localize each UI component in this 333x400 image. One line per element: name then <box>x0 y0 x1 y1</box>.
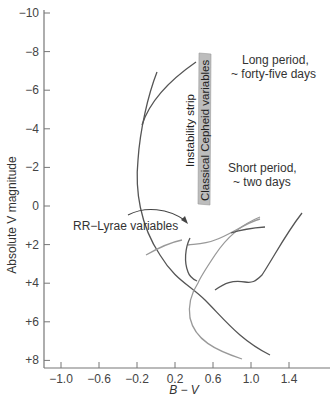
y-tick-label: −4 <box>25 122 39 136</box>
rr-lyrae-label: RR−Lyrae variables <box>73 219 178 233</box>
y-axis-title: Absolute V magnitude <box>5 156 19 274</box>
y-tick-label: +2 <box>25 238 39 252</box>
strip-label-classical-cepheid: Classical Cepheid variables <box>199 59 211 201</box>
y-ticks: −10−8−6−4−20+2+4+6+8 <box>19 6 50 367</box>
y-tick-label: −6 <box>25 83 39 97</box>
arrowhead-icon <box>181 216 188 224</box>
short-period-label: Short period, <box>228 161 297 175</box>
short-period-days: ~ two days <box>233 175 291 189</box>
y-tick-label: −2 <box>25 160 39 174</box>
y-tick-label: +8 <box>25 353 39 367</box>
horizontal-branch <box>146 240 182 255</box>
x-tick-label: −1.0 <box>49 372 73 386</box>
long-period-loop <box>215 213 302 290</box>
y-tick-label: −10 <box>19 6 40 20</box>
x-tick-label: 1.0 <box>243 372 260 386</box>
y-tick-label: +6 <box>25 315 39 329</box>
strip-label-instability: Instability strip <box>184 94 196 167</box>
y-tick-label: −8 <box>25 45 39 59</box>
evolutionary-tracks <box>128 62 302 359</box>
long-period-days: ~ forty-five days <box>231 67 316 81</box>
x-tick-label: 0.6 <box>205 372 222 386</box>
hr-diagram-chart: −10−8−6−4−20+2+4+6+8 −1.0−0.6−0.20.20.61… <box>0 0 333 400</box>
x-tick-label: −0.2 <box>125 372 149 386</box>
long-period-label: Long period, <box>242 53 309 67</box>
x-axis-title: B − V <box>169 383 200 397</box>
x-tick-label: 1.4 <box>281 372 298 386</box>
short-period-loop-upper <box>189 217 260 359</box>
y-tick-label: 0 <box>32 199 39 213</box>
y-tick-label: +4 <box>25 276 39 290</box>
y-axis: −10−8−6−4−20+2+4+6+8 <box>19 6 50 368</box>
x-tick-label: −0.6 <box>87 372 111 386</box>
short-period-loop-lower <box>188 219 260 245</box>
